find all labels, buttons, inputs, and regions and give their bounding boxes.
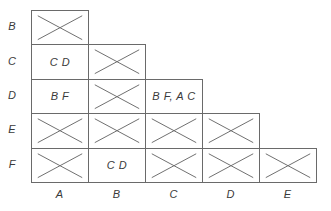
cell-f-a [31, 148, 89, 183]
cell-f-c [145, 148, 203, 183]
cross-icon [203, 149, 259, 182]
cell-d-c: B F, A C [145, 79, 203, 114]
col-label-b: B [107, 188, 127, 200]
cell-f-d [202, 148, 260, 183]
cross-icon [89, 114, 145, 147]
cell-text: B F [51, 90, 70, 102]
row-label-c: C [2, 55, 22, 67]
cell-d-b [88, 79, 146, 114]
cell-c-b [88, 44, 146, 79]
cross-icon [260, 149, 316, 182]
cross-icon [203, 114, 259, 147]
cell-text: C D [107, 159, 127, 171]
col-label-d: D [221, 188, 241, 200]
cell-b-a [31, 10, 89, 45]
cross-icon [89, 45, 145, 78]
col-label-c: C [164, 188, 184, 200]
cell-d-a: B F [31, 79, 89, 114]
cell-e-b [88, 113, 146, 148]
row-label-b: B [2, 20, 22, 32]
col-label-e: E [278, 188, 298, 200]
cross-icon [146, 149, 202, 182]
cell-c-a: C D [31, 44, 89, 79]
row-label-d: D [2, 89, 22, 101]
cell-f-e [259, 148, 317, 183]
row-label-f: F [2, 158, 22, 170]
cell-e-c [145, 113, 203, 148]
cell-text: B F, A C [152, 90, 195, 102]
cell-e-d [202, 113, 260, 148]
col-label-a: A [50, 188, 70, 200]
cross-icon [146, 114, 202, 147]
cell-f-b: C D [88, 148, 146, 183]
row-label-e: E [2, 123, 22, 135]
cross-icon [89, 80, 145, 113]
cross-icon [32, 11, 88, 44]
cross-icon [32, 114, 88, 147]
cell-text: C D [50, 56, 70, 68]
cell-e-a [31, 113, 89, 148]
cross-icon [32, 149, 88, 182]
